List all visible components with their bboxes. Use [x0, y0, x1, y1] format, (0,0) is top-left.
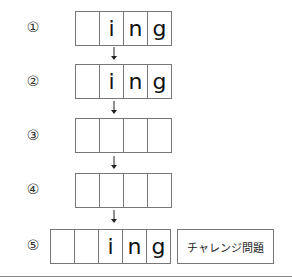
row-5-cell-5[interactable]: g	[146, 230, 170, 263]
row-1-cell-1[interactable]	[76, 12, 99, 45]
row-5-boxes: i n g	[50, 229, 171, 264]
row-1-cell-4[interactable]: g	[147, 12, 171, 45]
row-5-cell-2[interactable]	[74, 230, 98, 263]
row-3-number: ③	[23, 127, 43, 143]
row-2-cell-1[interactable]	[76, 65, 99, 98]
down-arrow-icon	[110, 101, 112, 115]
row-5-cell-1[interactable]	[51, 230, 74, 263]
row-4-cell-1[interactable]	[76, 174, 99, 207]
down-arrow-icon	[110, 210, 112, 224]
row-1-boxes: i n g	[75, 11, 172, 46]
row-3-cell-4[interactable]	[147, 119, 171, 152]
row-3-cell-2[interactable]	[99, 119, 123, 152]
row-3-boxes	[75, 118, 172, 153]
row-4-cell-4[interactable]	[147, 174, 171, 207]
row-2-boxes: i n g	[75, 64, 172, 99]
bottom-divider	[0, 276, 292, 277]
row-4-cell-3[interactable]	[123, 174, 147, 207]
challenge-problem-box: チャレンジ問題	[177, 229, 274, 264]
row-4-boxes	[75, 173, 172, 208]
down-arrow-icon	[110, 47, 112, 61]
row-1-cell-3[interactable]: n	[123, 12, 147, 45]
row-1-number: ①	[23, 19, 43, 35]
row-5-cell-4[interactable]: n	[122, 230, 146, 263]
row-3-cell-3[interactable]	[123, 119, 147, 152]
row-4-number: ④	[23, 181, 43, 197]
row-4-cell-2[interactable]	[99, 174, 123, 207]
row-2-number: ②	[23, 73, 43, 89]
row-2-cell-2[interactable]: i	[99, 65, 123, 98]
row-5-number: ⑤	[23, 237, 43, 253]
row-1-cell-2[interactable]: i	[99, 12, 123, 45]
row-2-cell-3[interactable]: n	[123, 65, 147, 98]
row-5-cell-3[interactable]: i	[98, 230, 122, 263]
row-3-cell-1[interactable]	[76, 119, 99, 152]
down-arrow-icon	[110, 156, 112, 170]
row-2-cell-4[interactable]: g	[147, 65, 171, 98]
